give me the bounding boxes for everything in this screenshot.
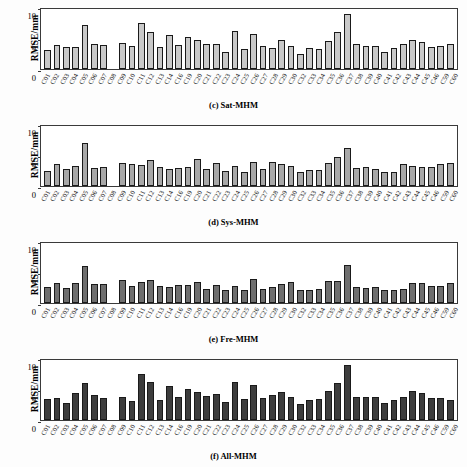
bar: [194, 392, 201, 420]
x-label-slot: C13: [154, 71, 164, 103]
bar-slot: [427, 126, 436, 186]
bar-slot: [286, 360, 295, 420]
bar-slot: [305, 360, 314, 420]
x-label-slot: C05: [78, 305, 88, 337]
bar: [82, 25, 89, 69]
bar-slot: [165, 360, 174, 420]
x-label-slot: C08: [107, 188, 117, 220]
x-label-slot: C43: [401, 188, 411, 220]
bar: [100, 45, 107, 69]
x-label-slot: C42: [392, 305, 402, 337]
x-label-slot: C46: [430, 71, 440, 103]
x-label-slot: C04: [69, 188, 79, 220]
x-label-slot: C27: [259, 188, 269, 220]
bar: [119, 43, 126, 69]
x-label-slot: C24: [230, 188, 240, 220]
x-label-slot: C32: [297, 71, 307, 103]
bar: [91, 168, 98, 186]
bar-slot: [268, 243, 277, 303]
bar-slot: [155, 243, 164, 303]
bar-slot: [202, 243, 211, 303]
x-label-slot: C43: [401, 71, 411, 103]
bar: [306, 400, 313, 420]
y-tick-label: 10: [28, 363, 37, 372]
bar-slot: [305, 243, 314, 303]
bar: [175, 285, 182, 303]
bar: [147, 160, 154, 186]
bar-slot: [389, 360, 398, 420]
bar: [119, 163, 126, 186]
x-label-slot: C08: [107, 305, 117, 337]
x-label-slot: C04: [69, 422, 79, 454]
bar: [250, 34, 257, 69]
x-label-slot: C20: [192, 188, 202, 220]
bar-slot: [240, 9, 249, 69]
x-label-slot: C46: [430, 422, 440, 454]
bar: [194, 159, 201, 186]
x-label-slot: C44: [411, 422, 421, 454]
bar: [288, 166, 295, 186]
x-label-slot: C37: [344, 305, 354, 337]
bar: [269, 395, 276, 420]
bar: [250, 279, 257, 303]
x-label-slot: C28: [268, 422, 278, 454]
bar: [353, 397, 360, 420]
bar: [185, 285, 192, 303]
bar-slot: [399, 126, 408, 186]
bar-slot: [109, 126, 118, 186]
bar: [409, 40, 416, 69]
bar-slot: [305, 126, 314, 186]
bar: [334, 383, 341, 420]
x-label-slot: C37: [344, 422, 354, 454]
bar-slot: [417, 243, 426, 303]
bar: [260, 289, 267, 303]
bar-slot: [343, 243, 352, 303]
bar-slot: [202, 360, 211, 420]
x-label-slot: C01: [40, 188, 50, 220]
bar: [185, 389, 192, 420]
bar-slot: [43, 126, 52, 186]
x-label-slot: C36: [335, 305, 345, 337]
bar-slot: [286, 126, 295, 186]
bar: [353, 287, 360, 303]
bar: [82, 143, 89, 186]
x-label-slot: C41: [382, 422, 392, 454]
x-label-slot: C23: [221, 305, 231, 337]
y-axis-ticks: 0510: [22, 125, 38, 187]
bar: [54, 283, 61, 303]
x-label-slot: C08: [107, 71, 117, 103]
bar: [119, 280, 126, 303]
bar: [409, 283, 416, 303]
x-label-slot: C27: [259, 71, 269, 103]
x-label-slot: C30: [287, 71, 297, 103]
bar: [241, 172, 248, 186]
bar: [372, 397, 379, 420]
bar: [419, 283, 426, 303]
bar-slot: [193, 9, 202, 69]
x-label-slot: C09: [116, 422, 126, 454]
bar-slot: [230, 126, 239, 186]
bar-slot: [165, 9, 174, 69]
bar: [129, 401, 136, 420]
x-label-slot: C21: [202, 422, 212, 454]
bar: [63, 403, 70, 420]
bar: [213, 163, 220, 186]
x-label-slot: C19: [183, 422, 193, 454]
bar-slot: [305, 9, 314, 69]
bar: [316, 399, 323, 420]
x-label-slot: C46: [430, 188, 440, 220]
bar: [203, 44, 210, 69]
bar-slot: [361, 360, 370, 420]
bar: [363, 167, 370, 186]
bar-slot: [118, 243, 127, 303]
x-label-slot: C10: [126, 422, 136, 454]
x-label-slot: C33: [306, 305, 316, 337]
bar: [391, 400, 398, 420]
bar: [138, 282, 145, 303]
bar-slot: [343, 126, 352, 186]
bar: [175, 45, 182, 69]
y-tick-label: 5: [32, 394, 36, 403]
bar-slot: [62, 243, 71, 303]
x-label-slot: C03: [59, 71, 69, 103]
bar-slot: [230, 243, 239, 303]
